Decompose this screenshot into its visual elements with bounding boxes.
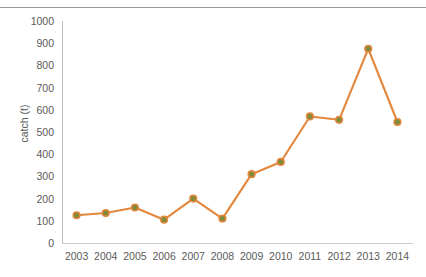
x-axis-tick-label: 2014 — [377, 250, 417, 262]
data-point-marker — [336, 116, 343, 123]
data-point-marker — [132, 204, 139, 211]
data-point-marker — [102, 210, 109, 217]
data-point-marker — [277, 159, 284, 166]
data-point-marker — [190, 195, 197, 202]
data-point-marker — [248, 171, 255, 178]
data-point-marker — [394, 119, 401, 126]
data-point-marker — [73, 212, 80, 219]
data-point-marker — [365, 45, 372, 52]
x-axis-tick-labels: 2003200420052006200720082009201020112012… — [62, 250, 412, 270]
data-point-marker — [161, 216, 168, 223]
catch-series-line — [77, 49, 398, 220]
data-point-marker — [307, 113, 314, 120]
data-point-marker — [219, 215, 226, 222]
chart-figure: 10009008007006005004003002001000 catch (… — [0, 0, 426, 277]
series-plot — [0, 0, 426, 277]
